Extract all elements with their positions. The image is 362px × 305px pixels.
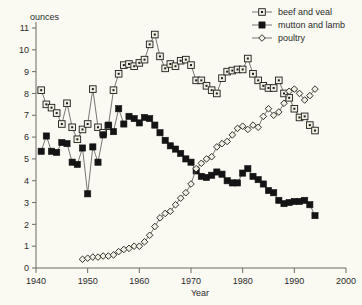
data-point-marker <box>95 159 101 165</box>
data-point-marker <box>95 254 102 261</box>
data-point-marker <box>85 191 91 197</box>
x-tick-label: 1940 <box>26 276 46 286</box>
legend-label: mutton and lamb <box>278 20 345 30</box>
legend-label: poultry <box>278 33 306 43</box>
data-point-marker <box>110 87 117 94</box>
x-tick-label: 2000 <box>336 276 356 286</box>
data-point-marker <box>105 253 112 260</box>
data-point-marker <box>152 31 159 38</box>
y-tick-label: 4 <box>24 176 29 186</box>
legend-sample-marker <box>259 22 265 28</box>
data-point-marker <box>64 141 70 147</box>
data-point-marker <box>245 55 252 62</box>
y-tick-label: 5 <box>24 154 29 164</box>
data-point-marker <box>43 133 49 139</box>
data-point-marker <box>54 149 60 155</box>
data-point-marker <box>307 202 313 208</box>
data-point-marker <box>260 181 266 187</box>
data-point-marker <box>312 213 318 219</box>
data-point-marker <box>239 66 246 73</box>
data-point-marker <box>157 53 164 60</box>
data-point-marker <box>147 115 153 121</box>
data-point-marker <box>152 122 158 128</box>
data-point-marker <box>90 86 97 93</box>
chart-page: 01234567891011 1940195019601970198019902… <box>0 0 362 305</box>
data-point-marker <box>291 105 298 112</box>
legend-sample-marker <box>259 9 266 16</box>
data-point-marker <box>74 136 81 143</box>
x-tick-label: 1960 <box>129 276 149 286</box>
data-point-marker <box>90 144 96 150</box>
y-tick-label: 9 <box>24 67 29 77</box>
y-axis-unit-label: ounces <box>30 12 60 22</box>
y-axis-ticks: 01234567891011 <box>19 23 36 273</box>
legend-label: beef and veal <box>278 7 332 17</box>
data-point-marker <box>64 100 71 107</box>
x-axis-ticks: 1940195019601970198019902000 <box>26 268 356 286</box>
data-point-marker <box>188 159 194 165</box>
legend-sample-marker <box>259 35 266 42</box>
data-series-group <box>38 31 318 262</box>
data-point-marker <box>110 129 116 135</box>
y-tick-label: 10 <box>19 45 29 55</box>
y-tick-label: 1 <box>24 241 29 251</box>
data-point-marker <box>260 113 267 120</box>
data-point-marker <box>234 180 240 186</box>
data-point-marker <box>69 124 76 131</box>
series-beef-and-veal <box>38 31 318 142</box>
data-point-marker <box>276 77 283 84</box>
y-tick-label: 2 <box>24 220 29 230</box>
data-point-marker <box>38 148 44 154</box>
data-point-marker <box>271 190 277 196</box>
data-point-marker <box>188 62 195 69</box>
x-tick-label: 1980 <box>233 276 253 286</box>
data-point-marker <box>100 132 106 138</box>
y-tick-label: 3 <box>24 198 29 208</box>
legend-item: mutton and lamb <box>252 20 345 30</box>
data-point-marker <box>84 121 91 128</box>
y-tick-label: 8 <box>24 89 29 99</box>
x-tick-label: 1990 <box>284 276 304 286</box>
data-point-marker <box>115 71 122 78</box>
data-point-marker <box>79 256 86 263</box>
data-point-marker <box>116 106 122 112</box>
data-point-marker <box>301 113 308 120</box>
legend-item: poultry <box>252 33 306 43</box>
data-point-marker <box>245 166 251 172</box>
data-point-marker <box>270 85 277 92</box>
line-chart: 01234567891011 1940195019601970198019902… <box>0 0 362 305</box>
data-point-marker <box>312 127 319 134</box>
data-point-marker <box>53 110 60 117</box>
data-point-marker <box>219 171 225 177</box>
data-point-marker <box>141 56 148 63</box>
data-point-marker <box>157 130 163 136</box>
legend-item: beef and veal <box>252 7 332 17</box>
data-point-marker <box>152 223 159 230</box>
data-point-marker <box>105 122 111 128</box>
data-point-marker <box>59 121 66 128</box>
x-tick-label: 1950 <box>78 276 98 286</box>
data-point-marker <box>214 90 221 97</box>
data-point-marker <box>121 121 127 127</box>
y-tick-label: 11 <box>20 23 29 33</box>
y-tick-label: 0 <box>24 263 29 273</box>
data-point-marker <box>286 95 293 102</box>
data-point-marker <box>38 87 45 94</box>
y-tick-label: 6 <box>24 132 29 142</box>
data-point-marker <box>250 71 257 78</box>
data-point-marker <box>84 255 91 262</box>
series-line <box>41 109 315 216</box>
data-point-marker <box>79 145 85 151</box>
chart-legend: beef and vealmutton and lambpoultry <box>252 7 345 43</box>
x-axis-title: Year <box>191 288 209 298</box>
data-point-marker <box>146 41 153 48</box>
data-point-marker <box>188 181 195 188</box>
y-tick-label: 7 <box>24 110 29 120</box>
data-point-marker <box>74 161 80 167</box>
x-tick-label: 1970 <box>181 276 201 286</box>
data-point-marker <box>219 75 226 82</box>
